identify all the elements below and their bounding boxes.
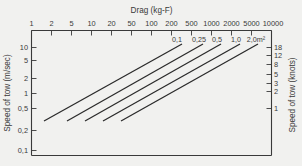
curve-series-0 xyxy=(44,44,182,121)
curve-label-4: 2,0m² xyxy=(247,35,266,44)
curve-series-3 xyxy=(103,44,240,121)
y-tick-label-right: 12 xyxy=(274,51,282,60)
x-tick-label: 1000 xyxy=(203,19,219,28)
y-axis-right-title: Speed of tow (knots) xyxy=(288,57,297,132)
y-axis-right-ticks xyxy=(267,48,272,109)
chart-figure: 1 2 5 10 20 50 100 200 500 1000 2000 500… xyxy=(0,0,302,166)
x-tick-label: 1 xyxy=(29,19,33,28)
x-tick-label: 100 xyxy=(145,19,157,28)
x-axis-tick-labels: 1 2 5 10 20 50 100 200 500 1000 2000 500… xyxy=(29,19,283,28)
x-tick-label: 20 xyxy=(107,19,115,28)
y-tick-label-left: 2 xyxy=(24,74,28,83)
y-axis-left-tick-labels: 10 5 2 1 0,5 0,2 0,1 xyxy=(18,43,28,155)
chart-title: Drag (kg-F) xyxy=(131,6,173,15)
y-axis-left-ticks xyxy=(32,48,37,151)
curve-labels: 0,1 0,25 0,5 1,0 2,0m² xyxy=(172,35,266,44)
x-tick-label: 10 xyxy=(87,19,95,28)
x-tick-label: 5 xyxy=(69,19,73,28)
y-tick-label-right: 5 xyxy=(274,70,278,79)
y-tick-label-left: 1 xyxy=(24,89,28,98)
y-tick-label-left: 0,2 xyxy=(18,126,28,135)
y-tick-label-right: 8 xyxy=(274,60,278,69)
chart-svg: 1 2 5 10 20 50 100 200 500 1000 2000 500… xyxy=(0,0,302,166)
x-tick-label: 10000 xyxy=(263,19,284,28)
y-tick-label-right: 2 xyxy=(274,87,278,96)
curve-series-2 xyxy=(85,44,221,121)
y-tick-label-left: 5 xyxy=(24,56,28,65)
x-tick-label: 200 xyxy=(165,19,177,28)
x-tick-label: 50 xyxy=(127,19,135,28)
x-tick-label: 5000 xyxy=(243,19,259,28)
y-tick-label-left: 0,1 xyxy=(18,146,28,155)
x-tick-label: 2 xyxy=(49,19,53,28)
x-tick-label: 500 xyxy=(185,19,197,28)
x-tick-label: 2000 xyxy=(223,19,239,28)
curve-label-2: 0,5 xyxy=(212,35,222,44)
y-axis-right-tick-labels: 18 12 8 5 3 2 1 xyxy=(274,43,282,113)
y-tick-label-right: 1 xyxy=(274,104,278,113)
y-tick-label-left: 0,5 xyxy=(18,104,28,113)
curve-label-0: 0,1 xyxy=(172,35,182,44)
data-curves xyxy=(44,44,258,121)
curve-series-1 xyxy=(67,44,203,121)
curve-label-1: 0,25 xyxy=(192,35,206,44)
curve-label-3: 1,0 xyxy=(231,35,241,44)
y-axis-left-title: Speed of tow (m/sec) xyxy=(3,54,12,132)
curve-series-4 xyxy=(121,44,258,121)
y-tick-label-left: 10 xyxy=(20,43,28,52)
